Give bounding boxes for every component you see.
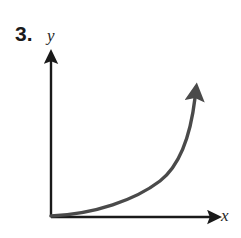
x-axis-label: x — [221, 206, 229, 225]
y-axis-label: y — [47, 26, 55, 45]
graph-svg — [0, 0, 241, 238]
figure-container: 3. y x — [0, 0, 241, 238]
exponential-curve — [51, 98, 195, 216]
problem-number: 3. — [15, 22, 33, 46]
